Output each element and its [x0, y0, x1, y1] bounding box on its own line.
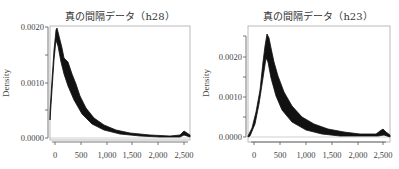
x-tick-label: 500	[75, 150, 88, 160]
x-tick-label: 1,500	[322, 150, 341, 160]
density-figure: 真の間隔データ（h28） 0.0020 0.0010 0.0000 Densit…	[0, 0, 399, 169]
chart-title: 真の間隔データ（h23）	[263, 10, 372, 22]
y-axis-label: Density	[1, 69, 11, 97]
x-axis	[251, 142, 386, 145]
x-tick-label: 0	[252, 150, 256, 160]
density-band	[248, 34, 390, 137]
density-band	[50, 28, 190, 137]
x-tick-label: 0	[53, 150, 57, 160]
x-axis	[52, 142, 188, 145]
chart-title: 真の間隔データ（h28）	[65, 10, 174, 22]
y-tick-label: 0.0000	[21, 133, 44, 143]
x-tick-label: 2,000	[148, 150, 167, 160]
y-tick-label: 0.0010	[219, 92, 242, 102]
x-tick-label: 2,500	[174, 150, 193, 160]
x-tick-label: 1,500	[122, 150, 141, 160]
y-tick-label: 0.0000	[219, 132, 242, 142]
panel-h28: 真の間隔データ（h28） 0.0020 0.0010 0.0000 Densit…	[1, 10, 194, 160]
y-tick-label: 0.0020	[21, 22, 44, 32]
x-tick-label: 2,500	[373, 150, 392, 160]
x-tick-label: 500	[274, 150, 287, 160]
y-axis	[243, 36, 246, 137]
x-tick-label: 2,000	[348, 150, 367, 160]
x-tick-label: 1,000	[97, 150, 116, 160]
y-tick-label: 0.0010	[21, 78, 44, 88]
y-axis-label: Density	[201, 69, 211, 97]
x-tick-label: 1,000	[296, 150, 315, 160]
y-tick-label: 0.0020	[219, 52, 242, 62]
y-axis	[45, 27, 48, 138]
panel-h23: 真の間隔データ（h23） 0.0020 0.0010 0.0000 Densit…	[201, 10, 393, 160]
